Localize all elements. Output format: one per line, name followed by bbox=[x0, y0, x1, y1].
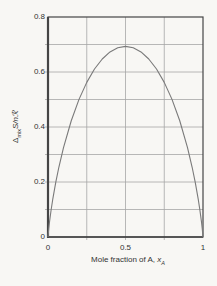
x-axis-title-text: Mole fraction of A, bbox=[91, 255, 157, 264]
y-axis-title-variable: S/nℛ bbox=[11, 111, 20, 129]
y-tick-label: 0.8 bbox=[14, 12, 45, 22]
axis-tick-marks bbox=[45, 45, 164, 241]
y-axis-title: ΔmixS/nℛ bbox=[11, 111, 21, 143]
y-tick-label: 0.6 bbox=[14, 67, 45, 77]
x-tick-label: 0.5 bbox=[114, 243, 138, 253]
y-axis-title-subscript: mix bbox=[16, 129, 22, 138]
gridlines bbox=[48, 17, 203, 237]
entropy-of-mixing-figure: 00.20.40.60.8 00.51 ΔmixS/nℛ Mole fracti… bbox=[0, 0, 217, 286]
chart-canvas bbox=[0, 0, 217, 286]
x-axis-title: Mole fraction of A, xA bbox=[48, 255, 208, 265]
y-tick-label: 0.2 bbox=[14, 177, 45, 187]
x-tick-label: 0 bbox=[36, 243, 60, 253]
y-tick-label: 0 bbox=[14, 232, 45, 242]
delta-symbol: Δ bbox=[11, 138, 20, 143]
x-axis-title-subscript: A bbox=[161, 260, 165, 266]
plot-frame bbox=[47, 17, 203, 238]
x-tick-label: 1 bbox=[191, 243, 215, 253]
